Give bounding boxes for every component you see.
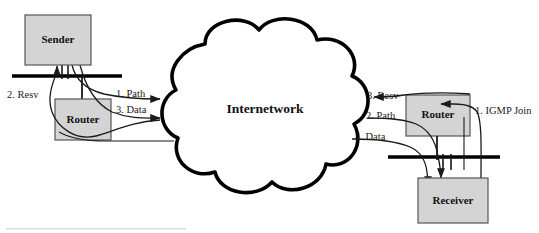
sender-box [25,15,91,65]
receiver-box [418,178,488,223]
diagram-graphics [0,0,539,233]
internetwork-cloud [162,19,368,193]
network-diagram-canvas: Sender Router Internetwork Router Receiv… [0,0,539,233]
router-right-box [406,95,470,136]
cloud-outline [162,19,368,193]
flow-data-right-arrow [352,139,428,186]
scan-artifact [6,228,186,229]
